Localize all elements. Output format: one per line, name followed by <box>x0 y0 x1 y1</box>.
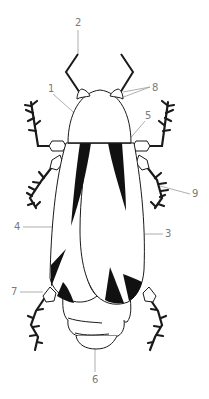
label-6: 6 <box>92 375 98 385</box>
label-2: 2 <box>75 18 81 28</box>
right-antenna <box>120 54 133 93</box>
right-hind-coxa <box>143 287 156 302</box>
left-antenna <box>66 54 80 93</box>
left-front-leg <box>31 102 52 146</box>
leader-line-8a <box>123 87 150 92</box>
left-hind-coxa <box>43 287 56 302</box>
label-5: 5 <box>145 111 151 121</box>
label-1: 1 <box>48 84 54 94</box>
left-front-coxa <box>49 141 66 151</box>
label-7: 7 <box>11 287 17 297</box>
label-8: 8 <box>152 83 158 93</box>
leader-line-8b <box>121 87 150 98</box>
label-9: 9 <box>192 189 198 199</box>
antennae <box>66 54 133 93</box>
label-3: 3 <box>165 229 171 239</box>
label-4: 4 <box>14 222 20 232</box>
beetle-diagram <box>0 0 209 399</box>
abdomen-tip <box>76 336 117 349</box>
right-front-leg <box>148 102 168 146</box>
